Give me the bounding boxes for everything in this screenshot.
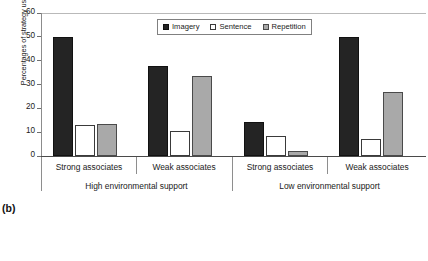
legend-swatch-imagery (163, 24, 169, 30)
bar-g2-sentence (170, 131, 190, 156)
bar-g4-imagery (339, 37, 359, 156)
bar-g2-repetition (192, 76, 212, 156)
x-category-label-2: Weak associates (137, 162, 231, 172)
bar-g1-sentence (75, 125, 95, 156)
bar-g3-sentence (266, 136, 286, 156)
legend-label-repetition: Repetition (272, 22, 306, 31)
legend-item-repetition: Repetition (263, 22, 306, 31)
x-group-label-low: Low environmental support (233, 181, 426, 191)
bar-g2-imagery (148, 66, 168, 156)
axis-separator-middle (232, 157, 233, 191)
x-group-label-high: High environmental support (42, 181, 231, 191)
bar-g4-repetition (383, 92, 403, 156)
plot-top-border (41, 13, 426, 14)
axis-separator-3 (327, 157, 328, 174)
bar-g3-imagery (244, 122, 264, 156)
axis-separator-left (41, 157, 42, 191)
bar-g4-sentence (361, 139, 381, 156)
bar-g3-repetition (288, 151, 308, 156)
chart-panel-a: Percentages of strategy use 0 10 20 30 4… (0, 0, 428, 196)
x-category-label-3: Strong associates (233, 162, 327, 172)
bar-g1-repetition (97, 124, 117, 156)
legend: Imagery Sentence Repetition (157, 19, 312, 35)
axis-separator-1 (136, 157, 137, 174)
y-axis-line (41, 13, 42, 157)
legend-swatch-repetition (263, 24, 269, 30)
legend-label-imagery: Imagery (172, 22, 199, 31)
legend-swatch-sentence (210, 24, 216, 30)
legend-item-imagery: Imagery (163, 22, 199, 31)
panel-b-tag: (b) (2, 202, 15, 214)
legend-label-sentence: Sentence (219, 22, 251, 31)
bar-g1-imagery (53, 37, 73, 156)
x-category-label-1: Strong associates (42, 162, 136, 172)
chart-panel-b: 60 (0, 228, 428, 261)
legend-item-sentence: Sentence (210, 22, 251, 31)
x-axis-line (41, 156, 426, 157)
x-category-label-4: Weak associates (328, 162, 426, 172)
